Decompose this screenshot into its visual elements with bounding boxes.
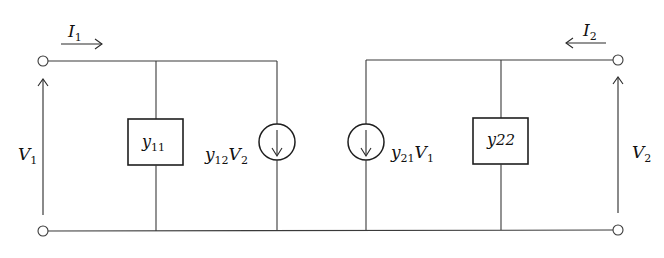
- y11-main: y: [142, 132, 151, 151]
- circuit-diagram: [0, 0, 664, 258]
- v2-label: V2: [632, 144, 651, 161]
- bottom-wire: [48, 230, 613, 231]
- i1-label: I1: [68, 23, 82, 40]
- i2-label: I2: [583, 22, 597, 39]
- y21v1-sub2: 1: [427, 152, 434, 165]
- i2-main: I: [583, 20, 590, 40]
- y21v1-sub1: 21: [401, 152, 415, 165]
- v2-main: V: [632, 142, 644, 162]
- y11-sub: 11: [151, 141, 165, 154]
- y21v1-v: V: [415, 142, 427, 162]
- y22-sub: 22: [496, 131, 515, 149]
- i1-main: I: [68, 21, 75, 41]
- i1-sub: 1: [75, 31, 82, 44]
- y22-label: y22: [487, 132, 515, 148]
- y12v2-y: y: [205, 144, 215, 164]
- y21v1-y: y: [391, 142, 401, 162]
- port2-bottom-terminal: [613, 225, 623, 235]
- y11-label: y11: [142, 134, 165, 150]
- y21v1-label: y21V1: [391, 144, 434, 161]
- y12v2-sub2: 2: [241, 154, 248, 167]
- port2-top-terminal: [613, 55, 623, 65]
- y12v2-label: y12V2: [205, 146, 248, 163]
- port1-bottom-terminal: [38, 226, 48, 236]
- v1-main: V: [18, 144, 30, 164]
- y22-main: y: [487, 130, 496, 149]
- v2-sub: 2: [644, 152, 651, 165]
- port1-top-terminal: [38, 56, 48, 66]
- y12v2-sub1: 12: [215, 154, 229, 167]
- v1-sub: 1: [30, 154, 37, 167]
- v1-label: V1: [18, 146, 37, 163]
- i2-sub: 2: [590, 30, 597, 43]
- y12v2-v: V: [229, 144, 241, 164]
